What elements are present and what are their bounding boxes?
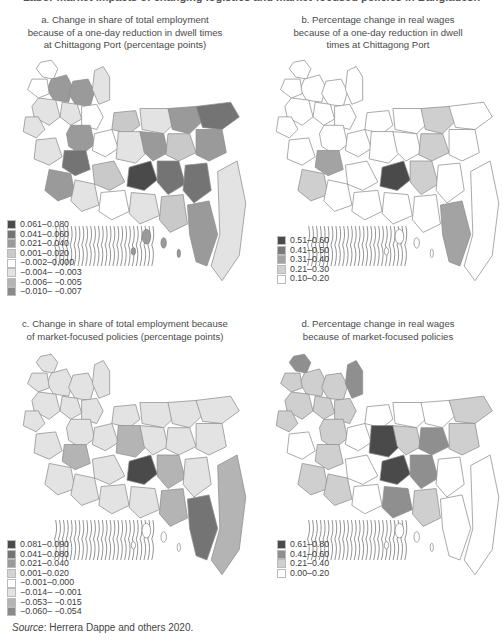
- district-region: [464, 455, 499, 575]
- district-region: [62, 445, 90, 470]
- district-region: [440, 495, 470, 560]
- district-region: [324, 180, 352, 212]
- district-region: [28, 79, 50, 98]
- district-region: [436, 163, 464, 203]
- district-region: [45, 463, 75, 495]
- district-region: [287, 432, 315, 459]
- district-region: [380, 455, 410, 484]
- legend-label: 0.10–0.20: [290, 274, 329, 284]
- district-region: [345, 67, 362, 105]
- district-region: [324, 474, 352, 506]
- legend-swatch: [7, 588, 16, 597]
- district-region: [449, 396, 492, 423]
- legend-swatch: [277, 275, 286, 284]
- district-region: [287, 138, 315, 165]
- district-region: [187, 495, 217, 560]
- district-region: [315, 151, 343, 176]
- island-region: [161, 532, 166, 543]
- district-region: [440, 201, 470, 266]
- district-region: [140, 132, 168, 161]
- legend-b: 0.51–0.600.41–0.500.31–0.400.21–0.300.10…: [277, 236, 329, 284]
- district-region: [352, 484, 382, 513]
- district-region: [211, 455, 246, 575]
- district-region: [196, 130, 226, 162]
- figure-title: Labor market impacts of changing logisti…: [0, 0, 503, 3]
- legend-swatch: [7, 249, 16, 258]
- legend-swatch: [277, 265, 286, 274]
- legend-item: −0.060– −0.054: [7, 607, 82, 617]
- district-region: [47, 369, 73, 396]
- district-region: [412, 195, 440, 233]
- legend-item: 0.00–0.20: [277, 569, 329, 579]
- district-region: [449, 424, 479, 456]
- district-region: [127, 161, 157, 190]
- district-region: [196, 102, 239, 129]
- district-region: [127, 455, 157, 484]
- district-region: [159, 489, 187, 527]
- district-region: [410, 161, 438, 195]
- island-region: [142, 523, 151, 538]
- island-region: [177, 249, 180, 257]
- district-region: [196, 424, 226, 456]
- district-region: [313, 396, 335, 419]
- legend-swatch: [277, 550, 286, 559]
- island-region: [430, 543, 433, 551]
- legend-swatch: [7, 607, 16, 616]
- legend-swatch: [7, 540, 16, 549]
- district-region: [92, 161, 124, 190]
- district-region: [365, 405, 393, 428]
- district-region: [99, 484, 129, 513]
- district-region: [69, 79, 95, 106]
- legend-c: 0.081–0.0900.041–0.0800.021–0.0400.001–0…: [7, 540, 82, 617]
- district-region: [62, 151, 90, 176]
- district-region: [34, 432, 62, 459]
- district-region: [449, 130, 479, 162]
- district-region: [382, 487, 412, 519]
- island-region: [414, 238, 419, 249]
- district-region: [345, 455, 377, 484]
- district-region: [166, 428, 196, 455]
- district-region: [140, 426, 168, 455]
- district-region: [92, 455, 124, 484]
- district-region: [322, 373, 348, 400]
- panel-c: c. Change in share of total employment b…: [0, 318, 250, 618]
- district-region: [183, 163, 211, 203]
- district-region: [92, 424, 118, 451]
- district-region: [315, 445, 343, 470]
- legend-item: 0.10–0.20: [277, 274, 329, 284]
- district-region: [157, 455, 185, 489]
- district-region: [419, 134, 449, 161]
- legend-label: −0.010– −0.007: [20, 287, 82, 297]
- district-region: [196, 396, 239, 423]
- district-region: [60, 396, 82, 419]
- district-region: [99, 190, 129, 219]
- legend-swatch: [277, 246, 286, 255]
- district-region: [380, 161, 410, 190]
- island-region: [131, 248, 135, 255]
- district-region: [129, 487, 159, 519]
- island-region: [142, 229, 151, 244]
- legend-swatch: [7, 230, 16, 239]
- district-region: [112, 405, 140, 428]
- island-region: [430, 249, 433, 257]
- island-region: [161, 238, 166, 249]
- legend-d: 0.61–0.800.41–0.600.21–0.400.00–0.20: [277, 540, 329, 578]
- district-region: [300, 75, 326, 102]
- legend-swatch: [7, 550, 16, 559]
- district-region: [166, 134, 196, 161]
- district-region: [419, 428, 449, 455]
- district-region: [92, 67, 109, 105]
- district-region: [410, 455, 438, 489]
- district-region: [45, 169, 75, 201]
- district-region: [322, 79, 348, 106]
- legend-swatch: [7, 569, 16, 578]
- district-region: [365, 111, 393, 134]
- island-region: [384, 248, 388, 255]
- district-region: [313, 102, 335, 125]
- legend-swatch: [7, 220, 16, 229]
- legend-swatch: [7, 259, 16, 268]
- panel-b: b. Percentage change in real wages becau…: [253, 14, 503, 314]
- panel-a: a. Change in share of total employment b…: [0, 14, 250, 314]
- district-region: [187, 201, 217, 266]
- legend-swatch: [277, 569, 286, 578]
